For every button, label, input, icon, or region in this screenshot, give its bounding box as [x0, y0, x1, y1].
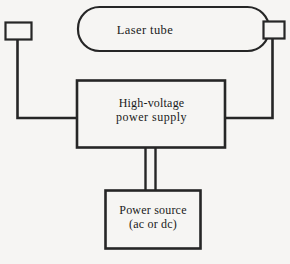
right-electrode-terminal [264, 22, 285, 39]
wire-left-electrode-to-supply [18, 40, 79, 118]
high-voltage-power-supply-box [77, 81, 225, 148]
laser-system-diagram: Laser tube High-voltage power supply Pow… [0, 0, 290, 264]
left-electrode-terminal [6, 23, 32, 40]
laser-tube-body [78, 7, 269, 51]
diagram-canvas [0, 0, 290, 264]
power-source-box [106, 191, 201, 249]
